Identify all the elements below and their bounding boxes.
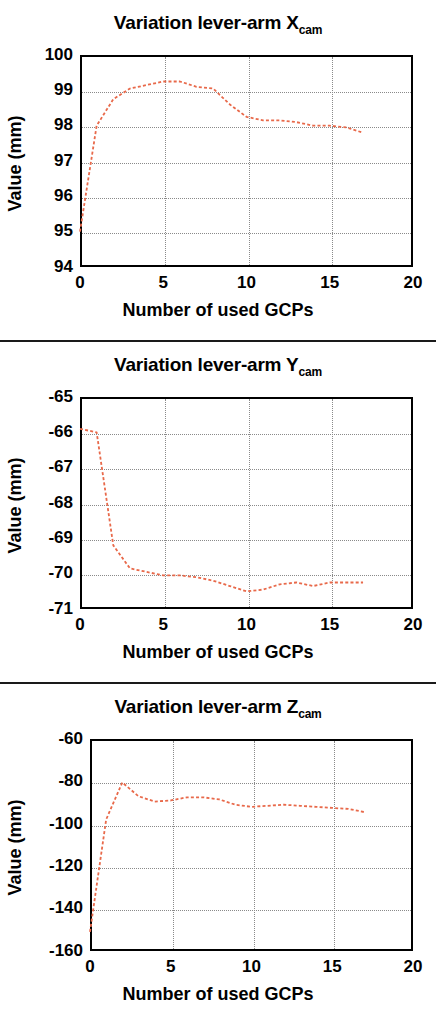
x-axis-label-x: Number of used GCPs: [0, 300, 436, 321]
chart-title-z-subscript: cam: [298, 707, 321, 721]
series-line-x: [0, 37, 436, 292]
data-series-polyline: [80, 429, 363, 592]
plot-area-x: Value (mm) 05101520949596979899100: [0, 37, 436, 292]
chart-title-y-subscript: cam: [299, 365, 322, 379]
chart-title-x: Variation lever-arm Xcam: [0, 0, 436, 37]
chart-panel-y: Variation lever-arm Ycam Value (mm) 0510…: [0, 342, 436, 682]
plot-area-y: Value (mm) 05101520-71-70-69-68-67-66-65: [0, 379, 436, 634]
x-axis-label-y: Number of used GCPs: [0, 642, 436, 663]
figure-container: Variation lever-arm Xcam Value (mm) 0510…: [0, 0, 436, 1021]
chart-title-x-text: Variation lever-arm X: [114, 12, 299, 33]
chart-title-z-text: Variation lever-arm Z: [114, 696, 298, 717]
chart-title-z: Variation lever-arm Zcam: [0, 684, 436, 721]
chart-title-y-text: Variation lever-arm Y: [114, 354, 299, 375]
plot-area-z: Value (mm) 05101520-160-140-120-100-80-6…: [0, 721, 436, 976]
chart-panel-z: Variation lever-arm Zcam Value (mm) 0510…: [0, 684, 436, 1021]
series-line-z: [0, 721, 436, 976]
x-axis-label-z: Number of used GCPs: [0, 984, 436, 1005]
chart-panel-x: Variation lever-arm Xcam Value (mm) 0510…: [0, 0, 436, 340]
chart-title-x-subscript: cam: [299, 23, 322, 37]
chart-title-y: Variation lever-arm Ycam: [0, 342, 436, 379]
series-line-y: [0, 379, 436, 634]
data-series-polyline: [90, 782, 365, 931]
data-series-polyline: [80, 81, 363, 231]
